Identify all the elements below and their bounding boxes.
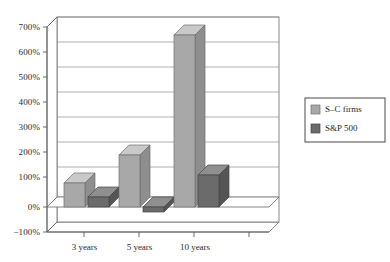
y-tick-label-500: 500%	[2, 73, 40, 82]
bar-chart: 700% 600% 500% 400% 300% 200% 100% 0% −1…	[0, 0, 390, 262]
x-tick-label-5-years: 5 years	[117, 243, 162, 252]
y-tick-label-neg100: −100%	[0, 228, 40, 237]
y-tick-label-400: 400%	[2, 98, 40, 107]
x-tick-label-3-years: 3 years	[62, 243, 107, 252]
bar-10-years-sp-500	[198, 165, 229, 207]
x-tick-label-10-years: 10 years	[170, 243, 220, 252]
legend-swatch-sc-firms	[311, 105, 320, 114]
bar-5-years-sc-firms	[119, 145, 150, 207]
plot-floor	[47, 222, 279, 232]
y-tick-label-100: 100%	[2, 173, 40, 182]
y-tick-label-700: 700%	[2, 23, 40, 32]
y-tick-label-200: 200%	[2, 148, 40, 157]
y-tick-label-600: 600%	[2, 48, 40, 57]
y-tick-label-300: 300%	[2, 123, 40, 132]
legend-swatch-sp-500	[311, 124, 320, 133]
y-tick-label-0: 0%	[2, 203, 40, 212]
legend-label-sp-500: S&P 500	[325, 124, 357, 133]
legend-label-sc-firms: S–C firms	[325, 105, 362, 114]
x-axis	[47, 232, 269, 237]
